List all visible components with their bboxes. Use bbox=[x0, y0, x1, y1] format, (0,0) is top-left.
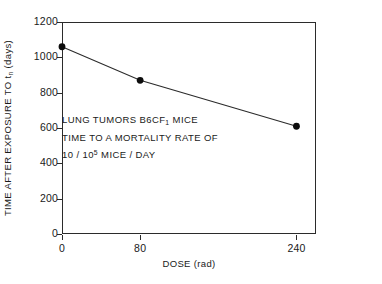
y-axis-title-subscript: n bbox=[7, 71, 14, 75]
x-axis-tick-label: 0 bbox=[59, 242, 65, 254]
annotation-text: TIME TO A MORTALITY RATE OF bbox=[62, 132, 218, 143]
x-axis-tick-label: 80 bbox=[134, 242, 146, 254]
y-axis-tick-label: 1200 bbox=[34, 15, 58, 27]
y-axis-tick-label: 200 bbox=[40, 192, 58, 204]
annotation-text: LUNG TUMORS B6CF bbox=[62, 114, 165, 125]
annotation-text: MICE / DAY bbox=[98, 149, 156, 160]
annotation-line: 10 / 105 MICE / DAY bbox=[62, 145, 218, 162]
y-axis-tick-label: 600 bbox=[40, 121, 58, 133]
y-axis-tick-label: 800 bbox=[40, 86, 58, 98]
x-axis-title: DOSE (rad) bbox=[62, 258, 316, 269]
data-point-marker bbox=[137, 77, 144, 84]
chart-annotation: LUNG TUMORS B6CF1 MICETIME TO A MORTALIT… bbox=[62, 112, 218, 162]
annotation-text: 10 / 10 bbox=[62, 149, 94, 160]
data-point-marker bbox=[59, 43, 66, 50]
x-axis-tick-mark bbox=[140, 235, 141, 240]
annotation-line: TIME TO A MORTALITY RATE OF bbox=[62, 130, 218, 145]
data-point-marker bbox=[293, 123, 300, 130]
annotation-text: MICE bbox=[170, 114, 198, 125]
y-axis-tick-label: 1000 bbox=[34, 50, 58, 62]
y-axis-tick-label: 0 bbox=[52, 227, 58, 239]
y-axis-title-prefix: TIME AFTER EXPOSURE TO t bbox=[2, 76, 13, 217]
y-axis-title: TIME AFTER EXPOSURE TO tn (days) bbox=[2, 22, 16, 234]
y-axis-tick-label: 400 bbox=[40, 156, 58, 168]
x-axis-tick-label: 240 bbox=[287, 242, 305, 254]
y-axis-title-suffix: (days) bbox=[2, 40, 13, 71]
chart-figure: TIME AFTER EXPOSURE TO tn (days) DOSE (r… bbox=[0, 0, 382, 284]
x-axis-tick-mark bbox=[296, 235, 297, 240]
annotation-line: LUNG TUMORS B6CF1 MICE bbox=[62, 112, 218, 130]
x-axis-tick-mark bbox=[62, 235, 63, 240]
